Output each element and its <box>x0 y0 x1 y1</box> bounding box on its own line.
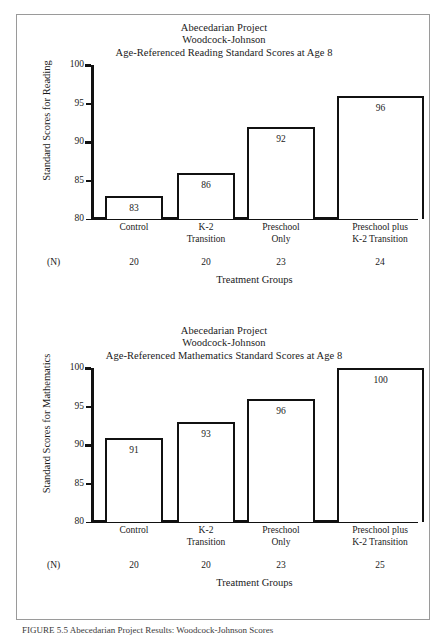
sample-size-value: 23 <box>251 560 311 570</box>
x-category-label: Preschool plusK-2 Transition <box>330 525 430 548</box>
sample-size-value: 20 <box>176 257 236 267</box>
sample-size-value: 20 <box>104 560 164 570</box>
x-category-label: PreschoolOnly <box>231 222 331 245</box>
chart-title-line: Abecedarian Project <box>17 325 431 337</box>
x-category-label-line: Preschool <box>231 222 331 234</box>
bar[interactable]: 100 <box>337 368 424 522</box>
x-category-label-line: K-2 Transition <box>330 234 430 246</box>
y-tick-label: 80 <box>75 213 85 223</box>
figure-caption: FIGURE 5.5 Abecedarian Project Results: … <box>22 625 432 637</box>
bar[interactable]: 92 <box>247 127 315 219</box>
x-category-label-line: Only <box>231 537 331 549</box>
bar[interactable]: 96 <box>337 96 424 219</box>
y-tick-label: 90 <box>75 136 85 146</box>
y-tick-label: 85 <box>75 478 85 488</box>
bar[interactable]: 83 <box>105 196 163 219</box>
mathematics-chart-panel: Abecedarian ProjectWoodcock-JohnsonAge-R… <box>17 318 431 621</box>
sample-size-label: (N) <box>47 257 60 267</box>
sample-size-row: (N)20202324 <box>17 257 418 271</box>
x-category-label-line: Preschool plus <box>330 222 430 234</box>
bar-value-label: 93 <box>179 429 233 439</box>
y-axis-ticks: 80859095100 <box>17 368 91 522</box>
x-axis-categories: ControlK-2TransitionPreschoolOnlyPrescho… <box>91 525 418 559</box>
bar-series: 83869296 <box>91 65 418 219</box>
chart-title: Abecedarian ProjectWoodcock-JohnsonAge-R… <box>17 318 431 362</box>
sample-size-value: 20 <box>104 257 164 267</box>
chart-title-line: Age-Referenced Mathematics Standard Scor… <box>17 350 431 362</box>
bar-value-label: 91 <box>107 445 161 455</box>
chart-title-line: Woodcock-Johnson <box>17 337 431 349</box>
bar[interactable]: 96 <box>247 399 315 522</box>
reading-chart-panel: Abecedarian ProjectWoodcock-JohnsonAge-R… <box>17 15 431 318</box>
bar-value-label: 96 <box>339 103 422 113</box>
chart-title: Abecedarian ProjectWoodcock-JohnsonAge-R… <box>17 15 431 59</box>
y-tick-label: 100 <box>70 362 84 372</box>
figure-frame: Abecedarian ProjectWoodcock-JohnsonAge-R… <box>16 14 430 620</box>
x-category-label: PreschoolOnly <box>231 525 331 548</box>
bar[interactable]: 86 <box>177 173 235 219</box>
y-axis-ticks: 80859095100 <box>17 65 91 219</box>
sample-size-row: (N)20202325 <box>17 560 418 574</box>
bar-value-label: 92 <box>249 134 313 144</box>
plot-area: Standard Scores for Reading8085909510083… <box>17 65 431 237</box>
x-axis-title: Treatment Groups <box>91 274 418 285</box>
bar-value-label: 86 <box>179 180 233 190</box>
bar[interactable]: 91 <box>105 438 163 523</box>
x-axis-title: Treatment Groups <box>91 577 418 588</box>
chart-title-line: Age-Referenced Reading Standard Scores a… <box>17 47 431 59</box>
y-tick-label: 95 <box>75 98 85 108</box>
chart-title-line: Woodcock-Johnson <box>17 34 431 46</box>
y-tick-label: 90 <box>75 439 85 449</box>
x-axis-categories: ControlK-2TransitionPreschoolOnlyPrescho… <box>91 222 418 256</box>
sample-size-value: 24 <box>350 257 410 267</box>
sample-size-label: (N) <box>47 560 60 570</box>
y-tick-label: 100 <box>70 59 84 69</box>
y-tick-label: 80 <box>75 516 85 526</box>
sample-size-value: 20 <box>176 560 236 570</box>
x-category-label-line: Preschool <box>231 525 331 537</box>
y-tick-label: 85 <box>75 175 85 185</box>
bar[interactable]: 93 <box>177 422 235 522</box>
plot-area: Standard Scores for Mathematics808590951… <box>17 368 431 540</box>
sample-size-value: 25 <box>350 560 410 570</box>
x-category-label-line: Preschool plus <box>330 525 430 537</box>
bar-series: 919396100 <box>91 368 418 522</box>
x-category-label-line: Only <box>231 234 331 246</box>
bar-value-label: 83 <box>107 203 161 213</box>
bar-value-label: 96 <box>249 406 313 416</box>
x-category-label: Preschool plusK-2 Transition <box>330 222 430 245</box>
bar-value-label: 100 <box>339 375 422 385</box>
chart-title-line: Abecedarian Project <box>17 22 431 34</box>
x-category-label-line: K-2 Transition <box>330 537 430 549</box>
y-tick-label: 95 <box>75 401 85 411</box>
sample-size-value: 23 <box>251 257 311 267</box>
